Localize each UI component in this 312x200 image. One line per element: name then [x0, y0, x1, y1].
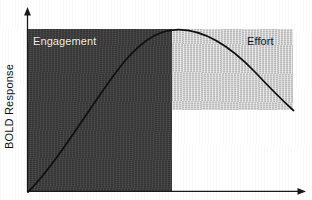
- plot-area: [0, 0, 312, 200]
- x-axis-arrow-icon: [298, 188, 307, 195]
- y-axis-arrow-icon: [24, 7, 31, 16]
- bold-response-figure: Engagement Effort BOLD Response: [0, 0, 312, 200]
- bold-response-curve: [28, 30, 294, 192]
